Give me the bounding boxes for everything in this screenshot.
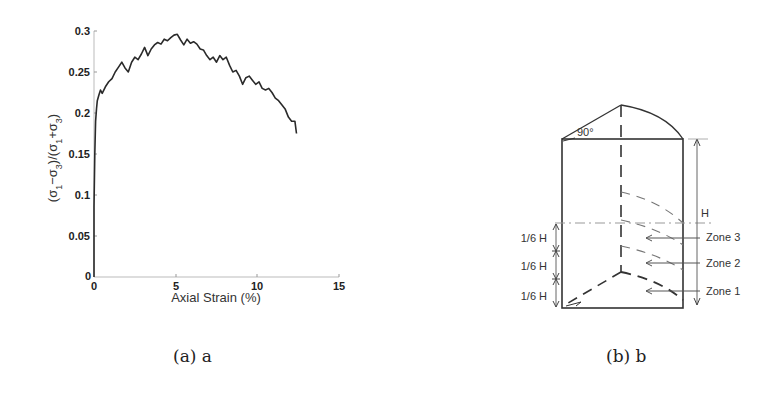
segment-label: 1/6 H xyxy=(521,290,547,302)
x-tick-label: 15 xyxy=(333,280,345,292)
y-tick-label: 0.25 xyxy=(69,66,90,78)
zone-boundary-upper xyxy=(621,192,683,223)
figure-canvas: 0.3 0.25 0.2 0.15 0.1 0.05 0 0 5 10 15 A… xyxy=(0,0,780,403)
diagram-b-labels: 90° H 1/6 H 1/6 H 1/6 H Zone 3 Zone 2 Zo… xyxy=(521,126,741,302)
y-tick-label: 0.3 xyxy=(75,25,90,37)
x-tick-label: 0 xyxy=(91,280,97,292)
zone-label: Zone 1 xyxy=(706,285,740,297)
y-tick-label: 0.1 xyxy=(75,189,90,201)
diagram-b xyxy=(552,105,712,308)
y-tick-label: 0.2 xyxy=(75,107,90,119)
x-axis-label: Axial Strain (%) xyxy=(171,290,261,305)
zone-label: Zone 2 xyxy=(706,257,740,269)
y-tick-label: 0.05 xyxy=(69,230,90,242)
segment-label: 1/6 H xyxy=(521,232,547,244)
caption-a: (a) a xyxy=(173,346,212,366)
caption-b: (b) b xyxy=(606,346,646,366)
zone-boundary-middle xyxy=(621,220,683,245)
angle-label: 90° xyxy=(577,126,594,138)
bottom-left-dashed xyxy=(563,272,621,306)
segment-label: 1/6 H xyxy=(521,260,547,272)
y-ticks: 0.3 0.25 0.2 0.15 0.1 0.05 0 xyxy=(69,25,97,282)
zone-label: Zone 3 xyxy=(706,231,740,243)
y-tick-label: 0.15 xyxy=(69,148,90,160)
zone-boundary-lower xyxy=(621,246,683,270)
cap-arc xyxy=(621,105,683,139)
height-label: H xyxy=(701,207,709,219)
data-series-line xyxy=(94,34,297,277)
bottom-right-dashed xyxy=(621,272,683,300)
chart-a: 0.3 0.25 0.2 0.15 0.1 0.05 0 0 5 10 15 A… xyxy=(45,25,345,305)
y-axis-label: (σ1−σ3)/(σ1+σ3) xyxy=(45,114,64,202)
